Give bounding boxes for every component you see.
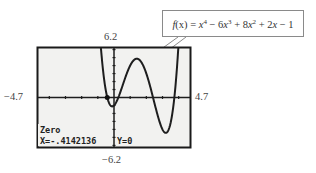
zero-cursor-point (105, 95, 110, 100)
x-readout: X=-.4142136 (40, 136, 96, 146)
function-callout-box: f(x) = x4 − 6x3 + 8x2 + 2x − 1 (162, 10, 304, 37)
y-readout: Y=0 (117, 136, 132, 146)
function-expression: f(x) = x4 − 6x3 + 8x2 + 2x − 1 (172, 18, 293, 30)
zero-mode-label: Zero (40, 125, 60, 135)
